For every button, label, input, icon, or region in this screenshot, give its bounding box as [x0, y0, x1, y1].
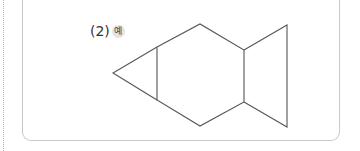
body-hexagon: [157, 24, 244, 126]
fish-figure: [0, 0, 360, 151]
tail-triangle: [244, 25, 287, 127]
head-triangle: [113, 47, 157, 100]
